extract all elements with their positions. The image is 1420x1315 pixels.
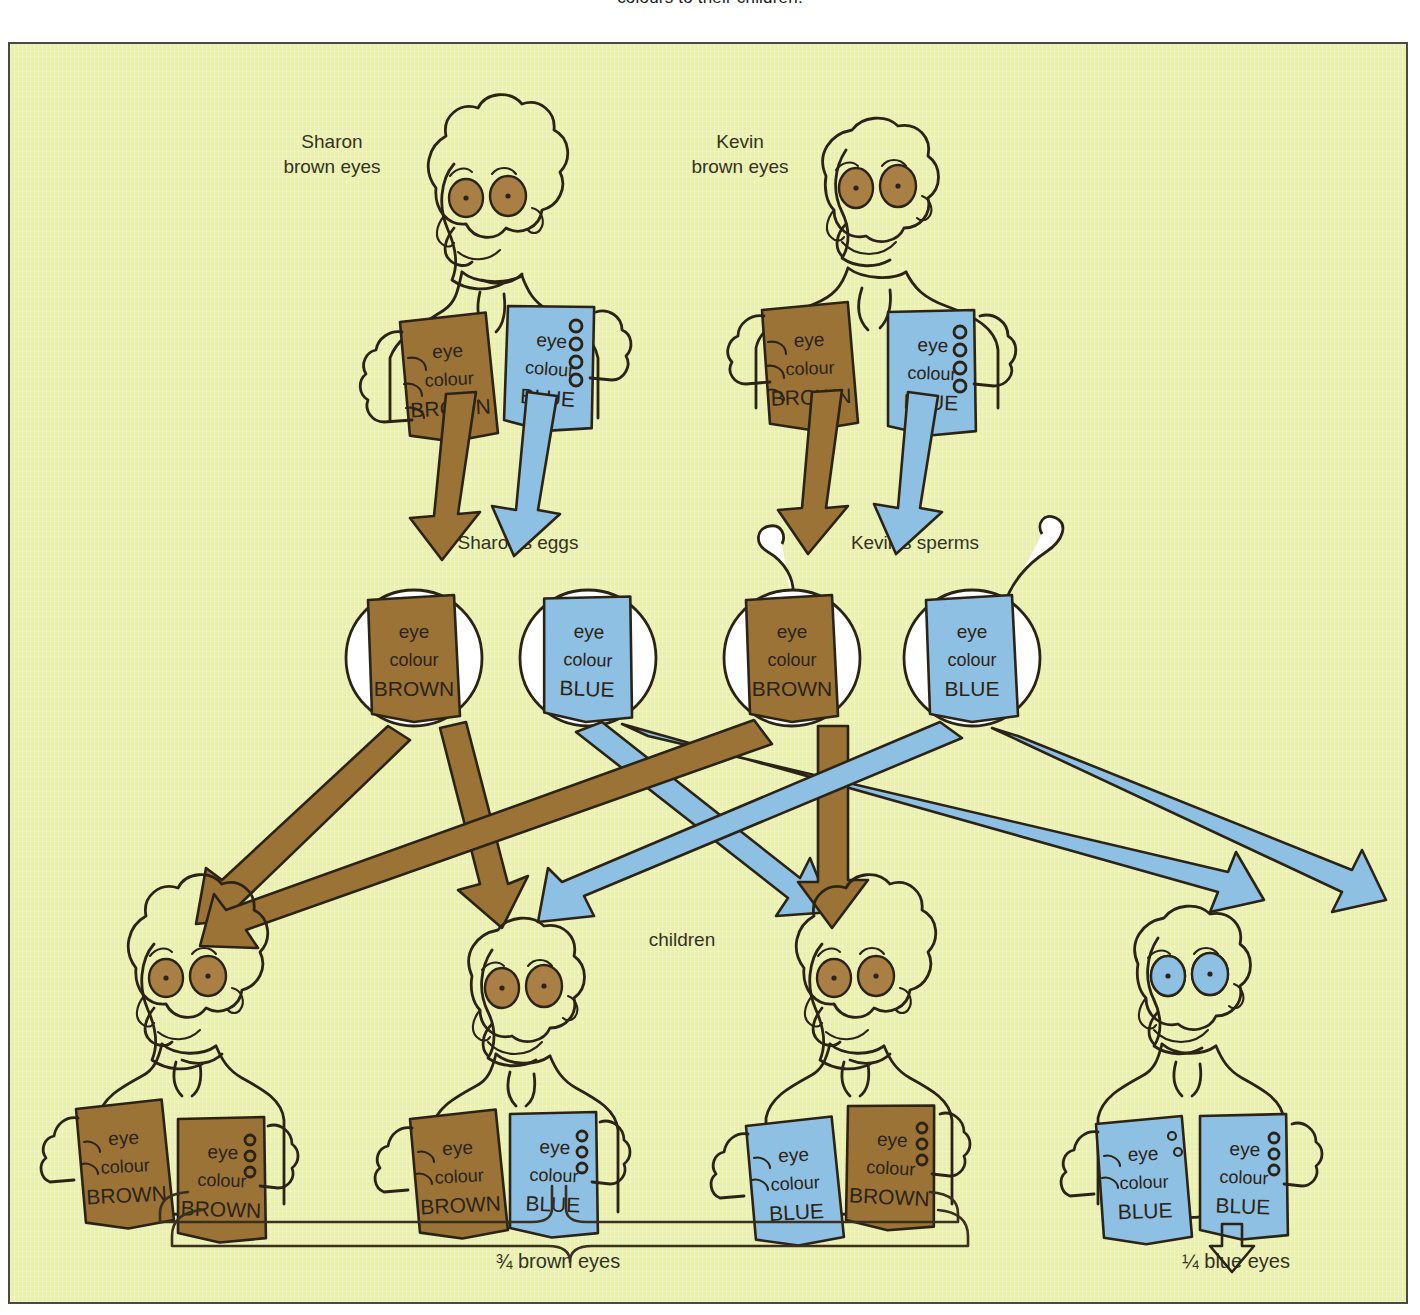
child-figure-4 <box>1061 906 1322 1246</box>
sharon-card-brown <box>360 312 498 444</box>
child4-card-right <box>1196 1111 1322 1241</box>
gamete-egg-brown <box>346 590 482 726</box>
gamete-sperm-blue <box>904 516 1063 726</box>
arrow-sharon-blue <box>492 392 560 556</box>
child4-card-left <box>1061 1116 1192 1246</box>
child1-card-right <box>174 1114 298 1244</box>
genetics-inheritance-figure: colours to their children. Sharon brown … <box>0 0 1420 1315</box>
arrow-kevin-blue <box>874 392 942 554</box>
arrows-gametes-to-children <box>196 720 1386 948</box>
gametes-row <box>346 516 1063 726</box>
ratio-braces <box>160 1186 1254 1272</box>
figure-caption: colours to their children. <box>0 0 1420 14</box>
illustration-frame: Sharon brown eyes Kevin brown eyes Sharo… <box>8 42 1408 1304</box>
gamete-egg-blue <box>520 590 656 726</box>
child-figure-2 <box>375 918 630 1241</box>
parent-figure-sharon <box>360 95 631 444</box>
diagram-canvas: .ink{fill:none;stroke:#2b2416;stroke-wid… <box>10 44 1408 1304</box>
child1-card-left <box>41 1099 174 1231</box>
child3-card-left <box>711 1116 844 1248</box>
sharon-card-blue <box>499 301 630 434</box>
parent-figure-kevin <box>728 118 1016 437</box>
child2-card-right <box>506 1109 630 1239</box>
child-figure-1 <box>41 875 298 1244</box>
kevin-card-blue <box>884 307 1016 437</box>
gamete-sperm-brown <box>724 526 860 726</box>
